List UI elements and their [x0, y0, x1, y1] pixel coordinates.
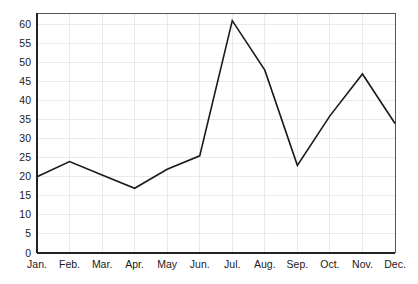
y-axis-tick-labels: 051015202530354045505560 — [19, 18, 31, 259]
x-tick-label: May — [157, 258, 178, 270]
x-tick-label: Jan. — [27, 258, 47, 270]
y-tick-label: 60 — [19, 18, 31, 30]
y-tick-label: 45 — [19, 75, 31, 87]
x-tick-label: Feb. — [59, 258, 80, 270]
line-chart: 051015202530354045505560 Jan.Feb.Mar.Apr… — [0, 0, 418, 284]
y-tick-label: 20 — [19, 170, 31, 182]
x-tick-label: Oct. — [320, 258, 339, 270]
x-tick-label: Mar. — [92, 258, 112, 270]
y-tick-label: 50 — [19, 56, 31, 68]
plot-background — [37, 13, 395, 253]
y-tick-label: 55 — [19, 37, 31, 49]
x-axis-tick-labels: Jan.Feb.Mar.Apr.MayJun.Jul.Aug.Sep.Oct.N… — [27, 258, 406, 270]
y-tick-label: 30 — [19, 132, 31, 144]
x-tick-label: Nov. — [352, 258, 373, 270]
x-tick-label: Jul. — [224, 258, 240, 270]
x-tick-label: Aug. — [254, 258, 276, 270]
x-tick-label: Jun. — [190, 258, 210, 270]
y-tick-label: 25 — [19, 151, 31, 163]
x-tick-label: Dec. — [384, 258, 406, 270]
y-tick-label: 10 — [19, 208, 31, 220]
x-tick-label: Apr. — [125, 258, 144, 270]
x-tick-label: Sep. — [287, 258, 309, 270]
y-tick-label: 35 — [19, 113, 31, 125]
y-tick-label: 40 — [19, 94, 31, 106]
y-tick-label: 15 — [19, 189, 31, 201]
y-tick-label: 5 — [25, 227, 31, 239]
chart-canvas: 051015202530354045505560 Jan.Feb.Mar.Apr… — [0, 0, 418, 284]
y-tick-label: 0 — [25, 247, 31, 259]
